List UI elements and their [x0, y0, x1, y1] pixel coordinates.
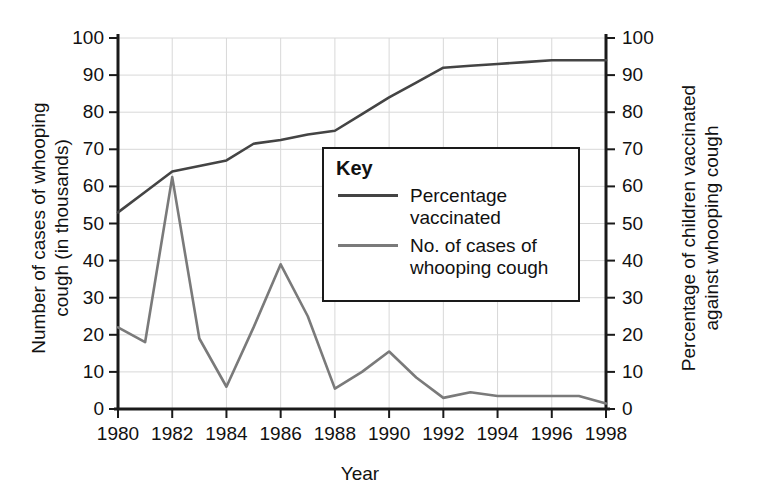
y-tick-label-left: 50	[60, 214, 104, 233]
y-tick-label-right: 90	[622, 65, 666, 84]
y-tick-label-right: 70	[622, 139, 666, 158]
y-tick-label-left: 40	[60, 251, 104, 270]
y-tick-label-right: 50	[622, 214, 666, 233]
x-axis-title: Year	[110, 462, 610, 485]
y-tick-label-left: 80	[60, 102, 104, 121]
y-tick-label-right: 0	[622, 399, 666, 418]
x-tick-label: 1986	[253, 424, 309, 443]
y-tick-label-right: 80	[622, 102, 666, 121]
x-tick-label: 1988	[307, 424, 363, 443]
x-tick-label: 1990	[361, 424, 417, 443]
y-tick-label-right: 100	[622, 28, 666, 47]
x-tick-label: 1996	[524, 424, 580, 443]
x-tick-label: 1984	[198, 424, 254, 443]
legend-item-label: Percentage vaccinated	[410, 185, 507, 229]
y-tick-label-right: 60	[622, 176, 666, 195]
y-tick-label-right: 30	[622, 288, 666, 307]
legend-item: Percentage vaccinated	[336, 185, 568, 229]
legend-title: Key	[336, 157, 568, 179]
y-tick-label-left: 20	[60, 325, 104, 344]
legend-line-swatch-icon	[336, 235, 400, 255]
chart-legend: Key Percentage vaccinatedNo. of cases of…	[322, 147, 580, 302]
y-tick-label-left: 90	[60, 65, 104, 84]
legend-items: Percentage vaccinatedNo. of cases of who…	[336, 185, 568, 279]
x-tick-label: 1998	[578, 424, 634, 443]
y-tick-label-left: 70	[60, 139, 104, 158]
legend-item-label: No. of cases of whooping cough	[410, 235, 548, 279]
legend-line-swatch-icon	[336, 185, 400, 205]
y-tick-label-left: 100	[60, 28, 104, 47]
y-tick-label-left: 30	[60, 288, 104, 307]
x-tick-label: 1994	[470, 424, 526, 443]
x-tick-label: 1980	[90, 424, 146, 443]
y-tick-label-right: 40	[622, 251, 666, 270]
chart-figure: Number of cases of whooping cough (in th…	[0, 0, 759, 501]
y-tick-label-left: 10	[60, 362, 104, 381]
legend-item: No. of cases of whooping cough	[336, 235, 568, 279]
y-tick-label-right: 10	[622, 362, 666, 381]
y-tick-label-left: 0	[60, 399, 104, 418]
x-tick-label: 1992	[415, 424, 471, 443]
x-tick-label: 1982	[144, 424, 200, 443]
y-axis-right-title: Percentage of children vaccinated agains…	[677, 48, 723, 408]
y-tick-label-right: 20	[622, 325, 666, 344]
y-tick-label-left: 60	[60, 176, 104, 195]
